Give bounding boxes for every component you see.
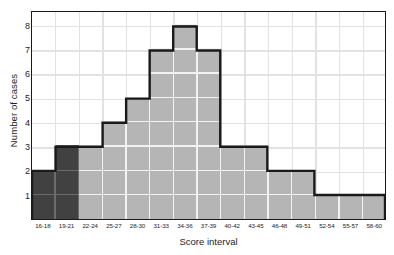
bar-fill [245, 146, 269, 219]
bar-gridline [174, 121, 198, 122]
bar-gridline [245, 145, 269, 146]
bar-gridline [56, 194, 80, 195]
y-axis-tick: 1 [14, 191, 30, 201]
bar-31-33 [150, 49, 174, 219]
bar-gridline [245, 194, 269, 195]
bar-gridline [174, 194, 198, 195]
bar-gridline [127, 170, 151, 171]
y-axis-tick: 2 [14, 166, 30, 176]
bar-gridline [127, 194, 151, 195]
bar-fill [127, 98, 151, 220]
y-axis-tick: 7 [14, 45, 30, 55]
bar-gridline [340, 194, 364, 195]
bar-fill [221, 146, 245, 219]
bar-gridline [363, 194, 386, 195]
y-axis-tick: 3 [14, 142, 30, 152]
x-axis-tick: 28-30 [130, 222, 145, 229]
x-axis-tick: 58-60 [366, 222, 381, 229]
bar-28-30 [127, 98, 151, 220]
bar-gridline [198, 72, 222, 73]
x-axis-tick: 52-54 [319, 222, 334, 229]
bar-gridline [174, 97, 198, 98]
plot-area [31, 11, 386, 220]
bar-gridline [198, 97, 222, 98]
bar-gridline [103, 194, 127, 195]
bar-gridline [127, 97, 151, 98]
bar-gridline [221, 194, 245, 195]
bar-gridline [221, 145, 245, 146]
bar-gridline [174, 72, 198, 73]
bar-gridline [198, 121, 222, 122]
y-axis-tick: 6 [14, 69, 30, 79]
bar-gridline [32, 170, 56, 171]
x-axis-tick: 25-27 [106, 222, 121, 229]
bar-fill [316, 195, 340, 219]
bar-gridline [292, 170, 316, 171]
bar-gridline [103, 121, 127, 122]
bar-16-18 [32, 170, 56, 219]
bar-gridline [79, 170, 103, 171]
bar-gridline [32, 194, 56, 195]
y-axis-tick-labels: 12345678 [14, 11, 30, 220]
bar-gridline [79, 194, 103, 195]
x-axis-tick: 40-42 [224, 222, 239, 229]
x-axis-tick: 43-45 [248, 222, 263, 229]
bar-gridline [127, 145, 151, 146]
bar-fill [340, 195, 364, 219]
x-axis-tick: 34-36 [177, 222, 192, 229]
bar-gridline [56, 145, 80, 146]
y-axis-tick: 4 [14, 118, 30, 128]
x-axis-tick: 22-24 [82, 222, 97, 229]
x-axis-title: Score interval [31, 236, 386, 247]
bar-gridline [174, 48, 198, 49]
x-axis-tick: 16-18 [35, 222, 50, 229]
bar-55-57 [340, 195, 364, 219]
bar-gridline [103, 170, 127, 171]
bar-fill [56, 146, 80, 219]
bar-gridline [198, 145, 222, 146]
bar-gridline [198, 194, 222, 195]
bar-gridline [150, 48, 174, 49]
bar-gridline [79, 145, 103, 146]
bar-37-39 [198, 49, 222, 219]
x-axis-tick: 55-57 [343, 222, 358, 229]
bar-gridline [174, 145, 198, 146]
bar-52-54 [316, 195, 340, 219]
bar-gridline [150, 170, 174, 171]
bar-gridline [269, 170, 293, 171]
bar-19-21 [56, 146, 80, 219]
bar-gridline [269, 194, 293, 195]
bar-22-24 [79, 146, 103, 219]
bar-gridline [174, 170, 198, 171]
bar-gridline [316, 194, 340, 195]
bar-gridline [150, 145, 174, 146]
bar-25-27 [103, 122, 127, 219]
x-axis-tick: 31-33 [153, 222, 168, 229]
bar-series [32, 12, 385, 219]
histogram-chart: Number of cases 12345678 16-1819-2122-24… [0, 0, 394, 255]
x-axis-tick: 19-21 [59, 222, 74, 229]
bar-gridline [245, 170, 269, 171]
bar-fill [79, 146, 103, 219]
bar-gridline [150, 72, 174, 73]
bar-gridline [198, 48, 222, 49]
bar-gridline [103, 145, 127, 146]
bar-46-48 [269, 170, 293, 219]
bar-gridline [150, 194, 174, 195]
bar-gridline [150, 97, 174, 98]
bar-gridline [127, 121, 151, 122]
bar-gridline [198, 170, 222, 171]
y-axis-tick: 5 [14, 93, 30, 103]
bar-49-51 [292, 170, 316, 219]
bar-gridline [292, 194, 316, 195]
bar-40-42 [221, 146, 245, 219]
bar-58-60 [363, 195, 386, 219]
bar-43-45 [245, 146, 269, 219]
x-axis-tick-labels: 16-1819-2122-2425-2728-3031-3334-3637-39… [31, 222, 386, 234]
bar-gridline [221, 170, 245, 171]
bar-gridline [56, 170, 80, 171]
bar-fill [363, 195, 386, 219]
bar-gridline [174, 24, 198, 25]
x-axis-tick: 46-48 [272, 222, 287, 229]
x-axis-tick: 37-39 [201, 222, 216, 229]
